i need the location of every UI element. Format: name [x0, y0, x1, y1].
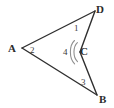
vertex-label-A: A: [8, 43, 16, 54]
geometry-canvas: [0, 0, 114, 108]
geometry-figure: A D C B 1 2 3 4: [0, 0, 114, 108]
angle-label-3: 3: [81, 78, 86, 87]
edge-C-B: [80, 52, 97, 95]
angle-label-1: 1: [74, 24, 79, 33]
angle-label-4: 4: [63, 48, 68, 57]
angle-label-2: 2: [30, 46, 35, 55]
vertex-label-C: C: [80, 46, 88, 57]
vertex-label-D: D: [96, 4, 104, 15]
angle-arc-C-inner: [74, 43, 78, 62]
vertex-label-B: B: [99, 94, 106, 105]
angle-arc-C: [70, 41, 77, 64]
